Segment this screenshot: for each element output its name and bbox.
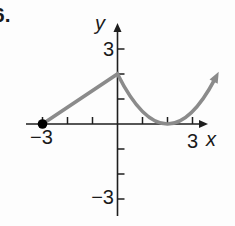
y-axis-label: y: [95, 13, 105, 33]
graph-figure: 6. y x 3 −3 −3 3: [0, 0, 235, 226]
y-tick-label-neg3: −3: [84, 187, 114, 207]
x-axis-label: x: [206, 129, 216, 149]
problem-number: 6.: [0, 5, 11, 25]
graph-svg: [0, 0, 235, 226]
y-tick-label-3: 3: [84, 39, 114, 59]
x-tick-label-3: 3: [184, 131, 201, 151]
x-tick-label-neg3: −3: [27, 127, 56, 147]
